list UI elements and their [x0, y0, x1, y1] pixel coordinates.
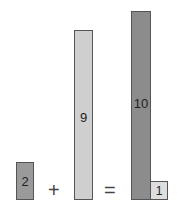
bar-10: 10 — [131, 11, 151, 200]
equals-sign: = — [104, 180, 116, 200]
plus-sign: + — [48, 180, 60, 200]
block-2-label: 2 — [21, 174, 28, 189]
bar-9-label: 9 — [80, 110, 87, 125]
block-1: 1 — [150, 181, 168, 200]
block-1-label: 1 — [156, 184, 163, 198]
bar-10-label: 10 — [134, 96, 148, 111]
bar-9: 9 — [74, 30, 93, 200]
block-2: 2 — [16, 162, 34, 200]
